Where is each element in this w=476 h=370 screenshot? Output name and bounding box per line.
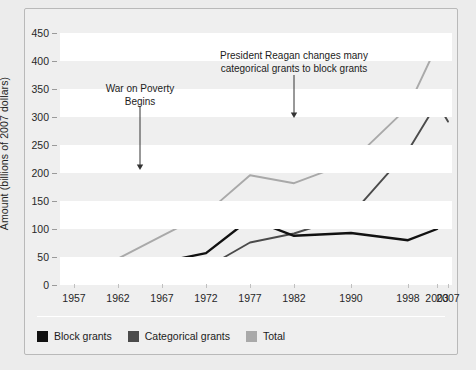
y-tick-label: 50 — [37, 251, 49, 263]
y-tick-label: 350 — [31, 83, 49, 95]
x-tick-mark — [250, 284, 251, 288]
y-tick-label: 300 — [31, 111, 49, 123]
x-tick-label: 1972 — [194, 292, 217, 304]
legend-label: Categorical grants — [145, 330, 230, 342]
y-tick-mark — [52, 201, 57, 202]
x-tick-mark — [408, 284, 409, 288]
legend-item-block-grants[interactable]: Block grants — [37, 330, 112, 342]
x-tick-label: 1967 — [150, 292, 173, 304]
x-tick-label: 1977 — [238, 292, 261, 304]
y-tick-label: 0 — [43, 279, 49, 291]
y-tick-mark — [52, 229, 57, 230]
legend-item-categorical-grants[interactable]: Categorical grants — [128, 330, 230, 342]
chart-legend: Block grantsCategorical grantsTotal — [37, 325, 445, 347]
arrow-war-on-poverty — [137, 106, 143, 170]
x-tick-label: 1990 — [339, 292, 362, 304]
arrow-reagan — [291, 75, 297, 118]
y-tick-label: 450 — [31, 27, 49, 39]
x-tick-mark — [162, 284, 163, 288]
x-tick-mark — [74, 284, 75, 288]
y-tick-mark — [52, 145, 57, 146]
y-tick-label: 400 — [31, 55, 49, 67]
annotation-war-on-poverty: War on Poverty Begins — [106, 82, 175, 108]
annotation-reagan: President Reagan changes many categorica… — [220, 49, 368, 75]
legend-label: Total — [263, 330, 285, 342]
legend-swatch — [128, 331, 139, 342]
x-axis-ticks: 1957196219671972197719821990199820032007 — [60, 288, 452, 310]
annotation-reagan-line1: President Reagan changes many — [220, 49, 368, 62]
x-tick-label: 1957 — [62, 292, 85, 304]
y-tick-label: 250 — [31, 139, 49, 151]
annotation-reagan-line2: categorical grants to block grants — [220, 62, 368, 75]
y-tick-mark — [52, 89, 57, 90]
legend-item-total[interactable]: Total — [246, 330, 285, 342]
y-tick-mark — [52, 257, 57, 258]
y-tick-label: 100 — [31, 223, 49, 235]
y-tick-mark — [52, 173, 57, 174]
y-tick-mark — [52, 285, 57, 286]
annotation-war-line1: War on Poverty — [106, 82, 175, 95]
y-tick-mark — [52, 33, 57, 34]
figure-container: Amount (billions of 2007 dollars) 050100… — [0, 0, 476, 370]
x-tick-mark — [448, 284, 449, 288]
x-tick-label: 1982 — [282, 292, 305, 304]
y-tick-mark — [52, 117, 57, 118]
y-tick-label: 200 — [31, 167, 49, 179]
x-tick-mark — [294, 284, 295, 288]
x-tick-label: 1998 — [396, 292, 419, 304]
x-tick-label: 1962 — [106, 292, 129, 304]
x-tick-mark — [351, 284, 352, 288]
legend-swatch — [37, 331, 48, 342]
legend-swatch — [246, 331, 257, 342]
y-tick-label: 150 — [31, 195, 49, 207]
annotation-war-line2: Begins — [106, 95, 175, 108]
y-tick-mark — [52, 61, 57, 62]
x-tick-mark — [118, 284, 119, 288]
x-tick-label: 2007 — [436, 292, 459, 304]
x-tick-mark — [206, 284, 207, 288]
x-tick-mark — [437, 284, 438, 288]
y-axis-ticks: 050100150200250300350400450 — [0, 22, 58, 285]
legend-label: Block grants — [54, 330, 112, 342]
legend-divider — [37, 316, 445, 317]
